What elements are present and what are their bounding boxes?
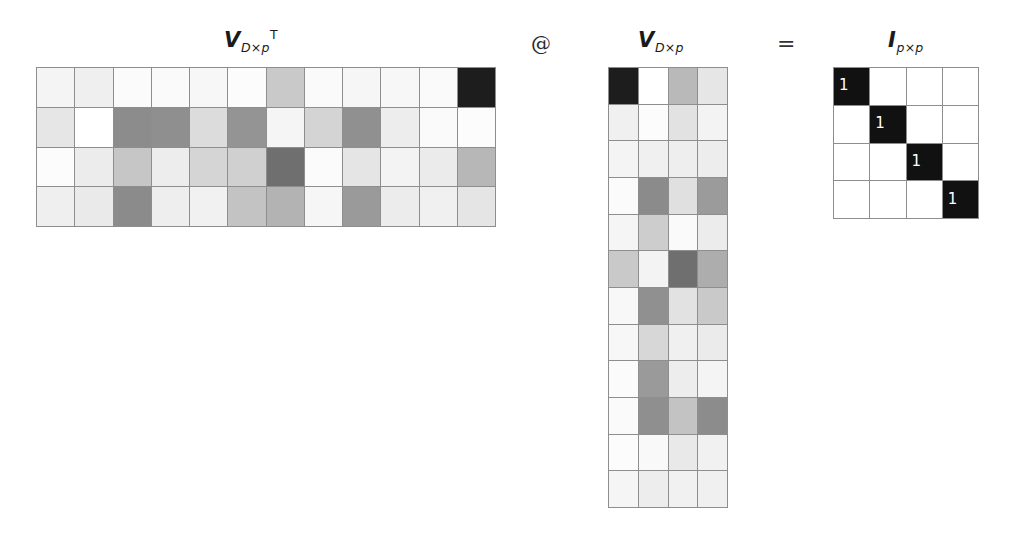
label-identity: Ip×p [888,30,923,51]
matrix-v [608,67,728,508]
matrix-cell [609,435,638,471]
matrix-cell [305,148,342,187]
matrix-cell [834,181,869,218]
matrix-cell [343,148,380,187]
matrix-cell [698,105,727,141]
matrix-cell [228,187,265,226]
matrix-cell [943,144,978,181]
matrix-cell [907,106,942,143]
matrix-cell [267,187,304,226]
matrix-cell [639,68,668,104]
matrix-cell [305,68,342,107]
matrix-cell [639,361,668,397]
figure-canvas: VD×pT @ VD×p = Ip×p 1111 [0,0,1016,553]
matrix-cell [669,361,698,397]
matrix-cell: 1 [870,106,905,143]
matrix-cell [343,187,380,226]
matrix-cell [609,361,638,397]
matrix-identity: 1111 [833,67,979,219]
label-middle-sub: D×p [655,40,684,55]
matrix-cell [458,187,495,226]
matrix-cell [37,148,74,187]
matrix-cell: 1 [834,68,869,105]
matrix-cell [305,187,342,226]
matrix-cell [698,288,727,324]
matrix-cell [834,144,869,181]
matrix-cell [381,68,418,107]
matrix-cell [639,105,668,141]
matrix-cell [228,68,265,107]
matrix-cell [420,148,457,187]
matrix-cell [609,288,638,324]
matrix-cell [698,435,727,471]
matrix-cell [228,148,265,187]
matrix-cell [609,105,638,141]
label-v-transpose: VD×pT [224,30,277,51]
matrix-cell [870,144,905,181]
matrix-cell [639,288,668,324]
matrix-cell: 1 [907,144,942,181]
matrix-cell [458,148,495,187]
matrix-cell [943,106,978,143]
matrix-cell [669,251,698,287]
matrix-cell [698,325,727,361]
matrix-cell [698,68,727,104]
label-left-sub: D×p [241,40,270,55]
matrix-cell [75,148,112,187]
matrix-cell [669,141,698,177]
matrix-cell [190,187,227,226]
matrix-cell [698,361,727,397]
matrix-cell [114,108,151,147]
matrix-cell [609,141,638,177]
equals-operator: = [777,33,795,55]
matrix-cell-value: 1 [907,154,922,170]
matrix-cell [669,435,698,471]
matrix-cell [37,187,74,226]
matrix-cell [639,215,668,251]
matrix-cell [37,108,74,147]
matrix-cell [267,148,304,187]
matrix-cell [870,181,905,218]
matrix-cell [698,251,727,287]
matrix-cell [639,325,668,361]
matrix-cell [458,108,495,147]
matrix-cell [190,68,227,107]
matrix-cell: 1 [943,181,978,218]
matrix-cell [420,187,457,226]
matrix-cell [37,68,74,107]
matrix-cell [152,108,189,147]
label-right-sub: p×p [897,40,924,55]
matrix-cell [669,325,698,361]
matrix-cell [609,215,638,251]
matrix-cell [609,251,638,287]
matrix-cell [609,471,638,507]
matrix-cell [343,108,380,147]
matrix-cell [639,398,668,434]
matrix-cell [943,68,978,105]
matrix-cell [343,68,380,107]
matrix-cell [609,325,638,361]
matrix-cell [698,398,727,434]
matrix-cell [152,187,189,226]
matrix-cell [381,187,418,226]
matrix-cell [75,187,112,226]
matrix-cell [228,108,265,147]
matrix-cell [639,251,668,287]
matrix-cell-value: 1 [834,78,849,94]
matrix-cell [458,68,495,107]
matrix-cell [834,106,869,143]
matrix-cell [609,178,638,214]
matrix-cell [114,187,151,226]
matrix-cell [669,105,698,141]
matrix-cell [267,108,304,147]
matrix-cell [152,148,189,187]
matrix-cell [381,108,418,147]
matrix-cell [669,68,698,104]
matrix-cell [669,398,698,434]
matrix-cell [190,108,227,147]
matrix-v-transpose [36,67,496,227]
matrix-cell [669,178,698,214]
matrix-cell [152,68,189,107]
matrix-cell [267,68,304,107]
matrix-cell [698,178,727,214]
